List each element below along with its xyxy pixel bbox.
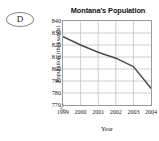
answer-choice-letter: D <box>17 15 24 24</box>
y-tick-label: 830 <box>52 30 61 36</box>
horizontal-gridlines <box>63 33 151 93</box>
x-tick-label: 2002 <box>110 109 122 115</box>
x-tick-label: 2003 <box>127 109 139 115</box>
line-chart: Montana's Population Population (thousan… <box>36 4 158 138</box>
y-tick-label: 800 <box>52 66 61 72</box>
y-tick-label: 820 <box>52 42 61 48</box>
y-tick-label: 790 <box>52 78 61 84</box>
data-series-line <box>63 37 151 89</box>
y-tick-label: 840 <box>52 18 61 24</box>
answer-choice-badge[interactable]: D <box>6 12 34 27</box>
plot-svg <box>63 21 151 105</box>
x-tick-label: 2004 <box>145 109 157 115</box>
x-tick-label: 2000 <box>75 109 87 115</box>
x-tick-label: 2001 <box>92 109 104 115</box>
chart-screenshot: D Montana's Population Population (thous… <box>0 0 159 141</box>
axis-break-icon <box>59 104 67 113</box>
y-tick-label: 810 <box>52 54 61 60</box>
y-tick-label: 780 <box>52 90 61 96</box>
plot-area: 840830820810800790780770 199920002001200… <box>62 20 152 106</box>
chart-title: Montana's Population <box>58 7 158 14</box>
x-axis-label: Year <box>62 126 152 132</box>
